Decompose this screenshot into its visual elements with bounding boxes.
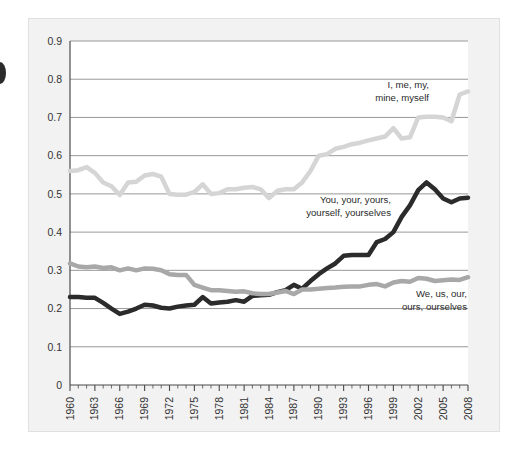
- x-tick-label-1990: 1990: [312, 397, 324, 421]
- y-tick-label-0.5: 0.5: [47, 188, 62, 200]
- y-tick-label-0.2: 0.2: [47, 302, 62, 314]
- x-tick-label-1981: 1981: [238, 397, 250, 421]
- annotation-you-your-line-1: yourself, yourselves: [306, 207, 391, 218]
- x-tick-label-1960: 1960: [64, 397, 76, 421]
- x-tick-label-1975: 1975: [188, 397, 200, 421]
- x-tick-label-1972: 1972: [163, 397, 175, 421]
- y-tick-label-0.1: 0.1: [47, 341, 62, 353]
- annotation-you-your: You, your, yours,yourself, yourselves: [306, 194, 391, 218]
- y-tick-label-0.8: 0.8: [47, 73, 62, 85]
- x-tick-label-1987: 1987: [287, 397, 299, 421]
- x-tick-label-1993: 1993: [337, 397, 349, 421]
- x-tick-label-1963: 1963: [88, 397, 100, 421]
- annotation-i-me-my-line-1: mine, myself: [375, 92, 429, 103]
- y-tick-label-0.4: 0.4: [47, 226, 62, 238]
- chart-page: 00.10.20.30.40.50.60.70.80.9196019631966…: [0, 0, 522, 456]
- annotation-you-your-line-0: You, your, yours,: [320, 194, 391, 205]
- x-tick-label-2008: 2008: [462, 397, 474, 421]
- annotation-i-me-my-line-0: I, me, my,: [388, 79, 429, 90]
- y-tick-label-0.6: 0.6: [47, 149, 62, 161]
- y-tick-label-0.7: 0.7: [47, 111, 62, 123]
- x-tick-label-1978: 1978: [213, 397, 225, 421]
- x-tick-label-1996: 1996: [362, 397, 374, 421]
- y-tick-label-0.3: 0.3: [47, 264, 62, 276]
- y-tick-label-0.9: 0.9: [47, 35, 62, 47]
- annotation-we-us-our-line-0: We, us, our,: [416, 288, 467, 299]
- x-tick-label-1984: 1984: [263, 397, 275, 421]
- x-tick-label-2002: 2002: [412, 397, 424, 421]
- x-tick-label-1966: 1966: [113, 397, 125, 421]
- annotation-we-us-our-line-1: ours, ourselves: [402, 301, 467, 312]
- line-chart: 00.10.20.30.40.50.60.70.80.9196019631966…: [0, 0, 522, 456]
- x-tick-label-1999: 1999: [387, 397, 399, 421]
- x-tick-label-2005: 2005: [437, 397, 449, 421]
- x-tick-label-1969: 1969: [138, 397, 150, 421]
- y-tick-label-0: 0: [56, 379, 62, 391]
